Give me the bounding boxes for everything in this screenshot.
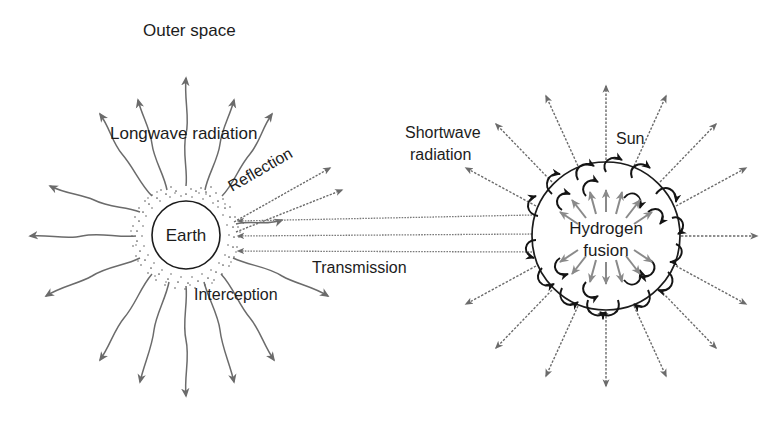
sun-label: Sun [616,130,644,147]
sw-ray-ssw [546,306,578,376]
sw-ray-sse [634,306,666,376]
longwave-radiation-label: Longwave radiation [110,124,257,143]
reflection-label: Reflection [225,144,295,194]
sw-ray-wsw [466,266,536,304]
sw-ray-nw [496,124,552,182]
interception-label: Interception [194,286,278,303]
outer-space-label: Outer space [143,21,236,40]
hydrogen-fusion-label-line1: Hydrogen [569,219,643,238]
transmission-beam-3 [238,251,532,252]
shortwave-radiation-label-line2: radiation [410,146,471,163]
radiation-diagram: Earth [0,0,779,434]
sw-ray-se [660,290,716,348]
shortwave-radiation-label-line1: Shortwave [405,124,481,141]
sw-ray-sw [496,290,552,348]
transmission-label: Transmission [312,259,407,276]
sw-ray-wnw [466,168,536,206]
transmission-beam-2 [238,234,532,236]
reflection-beam-2 [236,190,342,232]
transmission-beams [238,215,532,252]
sw-ray-ne [660,124,716,182]
earth-label: Earth [166,226,207,245]
sun-group: Hydrogen fusion [466,86,757,386]
sw-ray-ese [676,266,746,304]
sw-ray-nnw [546,96,578,166]
sw-ray-ene [676,168,746,206]
transmission-beam-1 [238,215,532,221]
diagram-canvas: Earth [0,0,779,434]
hydrogen-fusion-label-line2: fusion [583,241,628,260]
